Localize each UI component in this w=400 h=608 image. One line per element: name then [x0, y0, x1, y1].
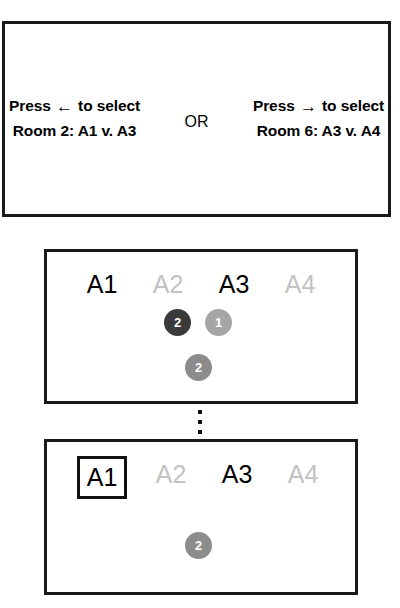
- agent-label-a3[interactable]: A3: [212, 266, 256, 303]
- instruction-row: Press ← to select Room 2: A1 v. A3 OR Pr…: [5, 95, 388, 142]
- left-arrow-icon: ←: [55, 97, 74, 116]
- agent-label-a1[interactable]: A1: [77, 456, 127, 499]
- agent-label-a4[interactable]: A4: [278, 266, 322, 303]
- agent-label-a3[interactable]: A3: [215, 456, 259, 493]
- instruction-panel: Press ← to select Room 2: A1 v. A3 OR Pr…: [2, 21, 391, 217]
- or-separator-label: OR: [183, 113, 211, 131]
- right-choice-room-label: Room 6: A3 v. A4: [257, 120, 381, 142]
- right-choice-press-label: Press: [253, 97, 299, 114]
- stage-panel-current: A1A2A3A4 212: [44, 249, 358, 404]
- token-badge: 2: [185, 532, 212, 559]
- agent-label-a2[interactable]: A2: [149, 456, 193, 493]
- right-arrow-icon: →: [299, 97, 318, 116]
- ellipsis-dot: [198, 410, 202, 414]
- token-badge: 1: [205, 309, 232, 336]
- vertical-ellipsis-icon: [0, 408, 400, 436]
- token-badge: 2: [185, 354, 212, 381]
- ellipsis-dot: [198, 420, 202, 424]
- left-choice-instruction: Press ← to select: [9, 95, 140, 120]
- left-choice-press-label: Press: [9, 97, 55, 114]
- agent-label-a1[interactable]: A1: [80, 266, 124, 303]
- ellipsis-dot: [198, 430, 202, 434]
- agent-label-a2[interactable]: A2: [146, 266, 190, 303]
- token-badge: 2: [164, 309, 191, 336]
- agent-label-row: A1A2A3A4: [47, 456, 355, 499]
- left-choice-select-label: to select: [74, 97, 140, 114]
- left-choice-room-label: Room 2: A1 v. A3: [13, 120, 137, 142]
- stage-panel-final: A1A2A3A4 2: [44, 439, 358, 595]
- left-choice-option[interactable]: Press ← to select Room 2: A1 v. A3: [9, 95, 140, 142]
- right-choice-instruction: Press → to select: [253, 95, 384, 120]
- agent-label-row: A1A2A3A4: [47, 266, 355, 303]
- agent-label-a4[interactable]: A4: [281, 456, 325, 493]
- right-choice-option[interactable]: Press → to select Room 6: A3 v. A4: [253, 95, 384, 142]
- right-choice-select-label: to select: [318, 97, 384, 114]
